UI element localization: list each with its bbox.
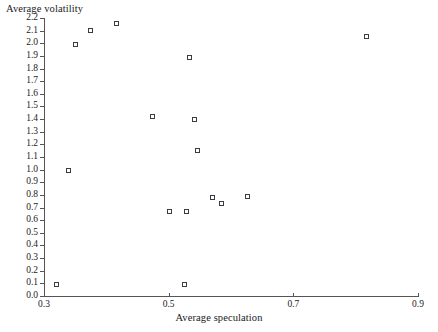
y-tick-label: 1.5: [26, 101, 38, 111]
y-tick-mark: [40, 69, 44, 70]
scatter-chart: Average volatility 0.00.10.20.30.40.50.6…: [0, 0, 438, 332]
y-tick-mark: [40, 208, 44, 209]
data-point: [187, 55, 192, 60]
data-point: [150, 114, 155, 119]
y-tick-label: 1.9: [26, 51, 38, 61]
y-tick-mark: [40, 119, 44, 120]
y-tick-label: 0.2: [26, 266, 38, 276]
y-tick-label: 0.6: [26, 215, 38, 225]
data-point: [192, 117, 197, 122]
y-tick-mark: [40, 233, 44, 234]
y-tick-mark: [40, 144, 44, 145]
y-tick-label: 1.8: [26, 64, 38, 74]
y-tick-label: 0.4: [26, 240, 38, 250]
x-axis-line: [44, 296, 419, 297]
y-tick-mark: [40, 258, 44, 259]
y-tick-label: 0.9: [26, 177, 38, 187]
x-tick-label: 0.9: [403, 299, 433, 310]
data-point: [184, 209, 189, 214]
x-tick-mark: [418, 293, 419, 297]
y-tick-label: 1.1: [26, 152, 38, 162]
y-tick-label: 0.3: [26, 253, 38, 263]
data-point: [73, 42, 78, 47]
data-point: [66, 168, 71, 173]
y-tick-mark: [40, 283, 44, 284]
y-tick-mark: [40, 81, 44, 82]
y-tick-label: 0.1: [26, 278, 38, 288]
y-tick-mark: [40, 220, 44, 221]
x-tick-mark: [169, 293, 170, 297]
y-tick-mark: [40, 195, 44, 196]
data-point: [167, 209, 172, 214]
plot-area: [44, 18, 418, 296]
x-axis-title: Average speculation: [0, 312, 438, 323]
y-tick-mark: [40, 245, 44, 246]
x-tick-label: 0.3: [29, 299, 59, 310]
y-tick-label: 2.0: [26, 38, 38, 48]
y-tick-mark: [40, 56, 44, 57]
data-point: [245, 194, 250, 199]
data-point: [114, 21, 119, 26]
data-point: [182, 282, 187, 287]
y-tick-label: 1.7: [26, 76, 38, 86]
y-tick-mark: [40, 18, 44, 19]
y-tick-label: 1.3: [26, 127, 38, 137]
y-tick-label: 2.1: [26, 26, 38, 36]
y-tick-label: 1.2: [26, 139, 38, 149]
y-axis-title: Average volatility: [6, 3, 83, 14]
y-tick-mark: [40, 132, 44, 133]
data-point: [195, 148, 200, 153]
y-axis-line: [44, 18, 45, 297]
y-tick-label: 0.7: [26, 203, 38, 213]
data-point: [88, 28, 93, 33]
x-tick-label: 0.7: [278, 299, 308, 310]
data-point: [210, 195, 215, 200]
y-tick-mark: [40, 170, 44, 171]
y-tick-mark: [40, 271, 44, 272]
y-tick-label: 1.4: [26, 114, 38, 124]
data-point: [364, 34, 369, 39]
y-tick-label: 1.0: [26, 165, 38, 175]
y-tick-label: 0.5: [26, 228, 38, 238]
y-tick-mark: [40, 182, 44, 183]
x-tick-mark: [293, 293, 294, 297]
x-tick-label: 0.5: [154, 299, 184, 310]
data-point: [54, 282, 59, 287]
y-tick-label: 1.6: [26, 89, 38, 99]
y-tick-label: 2.2: [26, 13, 38, 23]
y-tick-label: 0.8: [26, 190, 38, 200]
y-tick-mark: [40, 106, 44, 107]
x-tick-mark: [44, 293, 45, 297]
y-tick-mark: [40, 94, 44, 95]
y-tick-mark: [40, 43, 44, 44]
data-point: [219, 201, 224, 206]
y-tick-mark: [40, 157, 44, 158]
y-tick-mark: [40, 31, 44, 32]
